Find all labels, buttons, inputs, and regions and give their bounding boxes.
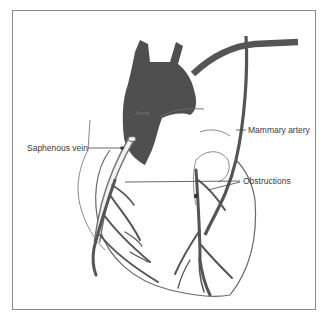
saphenous-vein-label: Saphenous vein [27, 144, 88, 153]
obstructions-label: Obstructions [243, 177, 291, 186]
left-coronary-branches [175, 170, 232, 295]
heart-illustration [0, 0, 328, 320]
aorta-shape [123, 40, 196, 165]
obstructions-leader-1 [125, 181, 240, 182]
saphenous-vein-end [128, 137, 136, 142]
mammary-artery-label: Mammary artery [248, 126, 310, 135]
left-atrium-outline [196, 130, 230, 182]
saphenous-vein-graft [97, 138, 132, 242]
obstruction-marker [194, 194, 198, 198]
obstructions-leader-2 [208, 182, 240, 190]
aorta-label: Aorta [135, 110, 149, 116]
right-coronary-branches [93, 180, 158, 282]
mammary-artery-descending [205, 36, 247, 235]
